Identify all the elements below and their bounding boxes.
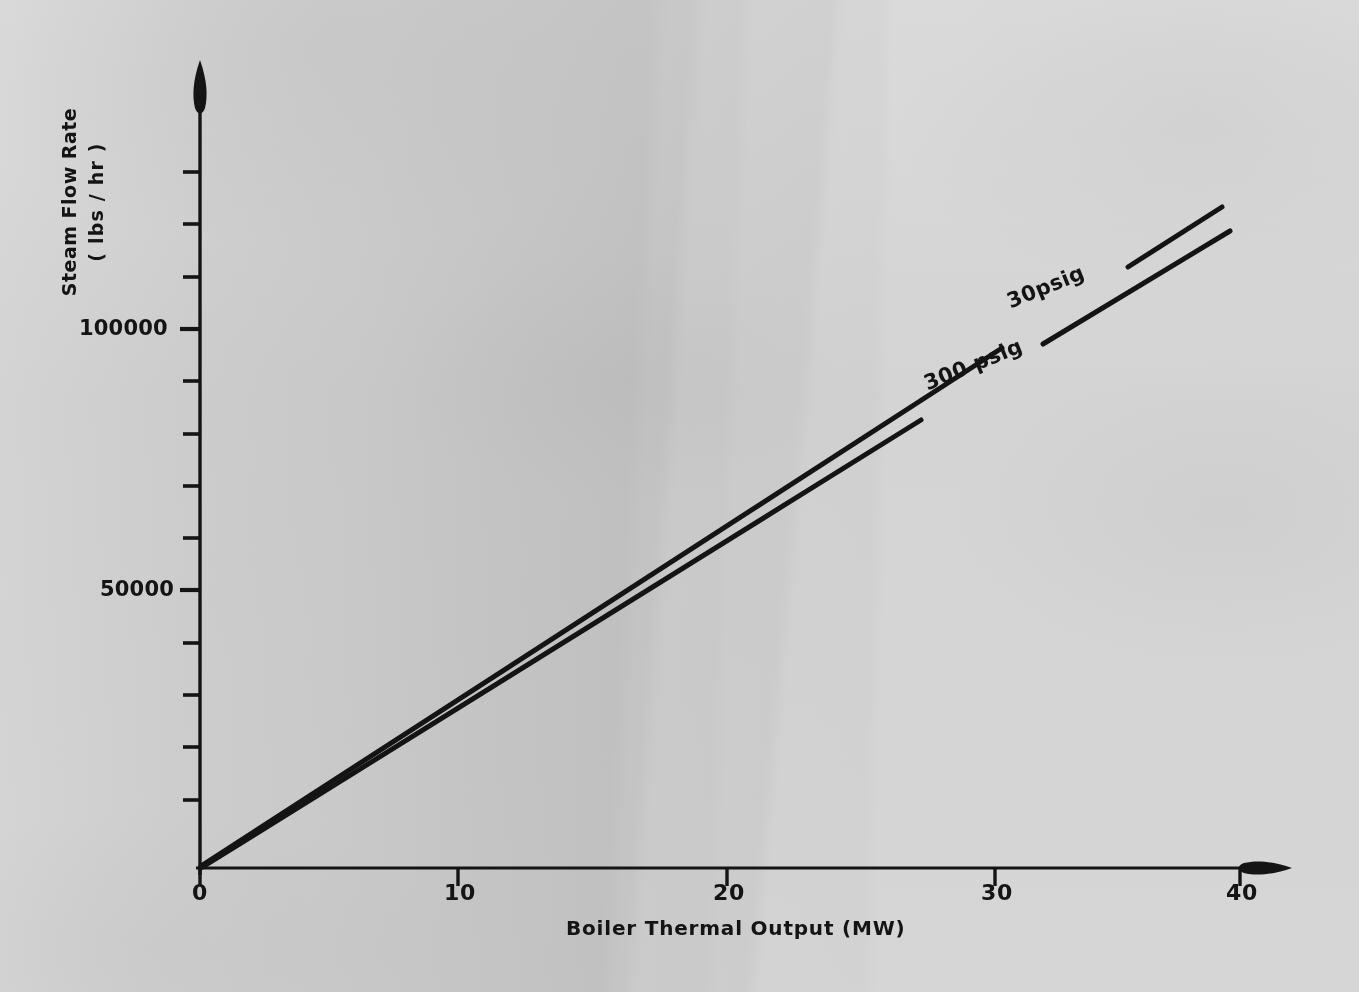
chart-figure: Steam Flow Rate ( lbs / hr ) 100000 5000…: [0, 0, 1359, 992]
series-line-30psig: [201, 207, 1222, 866]
x-tick-label-40: 40: [1226, 880, 1258, 905]
y-tick-label-50000: 50000: [100, 577, 174, 601]
x-axis: [196, 861, 1292, 874]
x-tick-label-20: 20: [713, 880, 745, 905]
y-axis: [193, 60, 206, 875]
series-line-300psig: [201, 231, 1230, 868]
x-axis-title: Boiler Thermal Output (MW): [566, 916, 905, 940]
y-axis-ticks: [180, 172, 200, 800]
x-tick-label-30: 30: [981, 880, 1013, 905]
y-tick-label-100000: 100000: [79, 316, 168, 340]
plot-canvas: [0, 0, 1359, 992]
y-axis-arrowhead: [193, 60, 206, 113]
y-axis-title-line1: Steam Flow Rate: [56, 87, 83, 317]
y-axis-title-line2: ( lbs / hr ): [83, 87, 110, 317]
x-tick-label-0: 0: [192, 880, 208, 905]
x-tick-label-10: 10: [444, 880, 476, 905]
x-axis-arrowhead: [1239, 861, 1292, 874]
y-axis-title: Steam Flow Rate ( lbs / hr ): [56, 87, 110, 317]
